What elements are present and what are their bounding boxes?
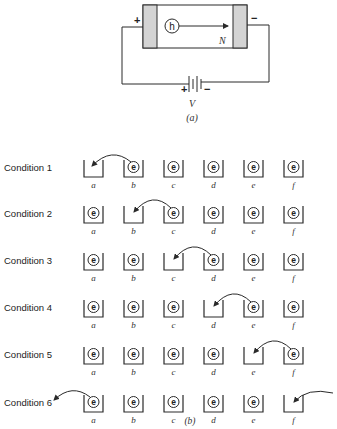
condition-label: Condition 6 xyxy=(4,397,52,408)
electron-symbol: e xyxy=(291,349,296,359)
bucket-label: a xyxy=(91,273,96,283)
electron-symbol: e xyxy=(291,255,296,265)
condition-label: Condition 4 xyxy=(4,302,52,313)
condition-label: Condition 1 xyxy=(4,162,52,173)
bucket-d xyxy=(204,300,223,317)
electron-symbol: e xyxy=(251,208,256,218)
electron-symbol: e xyxy=(171,349,176,359)
right-contact-plate xyxy=(233,5,247,48)
bucket-label: e xyxy=(252,180,256,190)
bucket-label: d xyxy=(211,273,216,283)
electron-symbol: e xyxy=(91,255,96,265)
electron-symbol: e xyxy=(171,208,176,218)
battery-minus: − xyxy=(204,83,210,95)
battery-plus: + xyxy=(181,83,187,95)
bucket-label: f xyxy=(292,320,296,330)
bucket-label: f xyxy=(292,180,296,190)
electron-symbol: e xyxy=(291,208,296,218)
electron-symbol: e xyxy=(211,349,216,359)
electron-symbol: e xyxy=(131,255,136,265)
bucket-label: b xyxy=(131,273,136,283)
electron-symbol: e xyxy=(251,255,256,265)
transfer-arrow-icon xyxy=(254,341,291,353)
bucket-label: f xyxy=(292,226,296,236)
bucket-label: a xyxy=(91,320,96,330)
bucket-label: a xyxy=(91,367,96,377)
bucket-label: b xyxy=(131,415,136,425)
left-terminal-sign: + xyxy=(134,14,140,26)
electron-symbol: e xyxy=(251,302,256,312)
bucket-f xyxy=(284,395,303,412)
bucket-label: c xyxy=(172,273,176,283)
condition-label: Condition 5 xyxy=(4,349,52,360)
bucket-b xyxy=(124,206,143,223)
electron-symbol: e xyxy=(131,349,136,359)
bucket-label: c xyxy=(172,320,176,330)
bucket-label: c xyxy=(172,367,176,377)
bucket-label: d xyxy=(211,226,216,236)
bucket-label: d xyxy=(211,320,216,330)
condition-label: Condition 2 xyxy=(4,208,52,219)
electron-symbol: e xyxy=(211,397,216,407)
bucket-label: c xyxy=(172,415,176,425)
transfer-arrow-icon xyxy=(174,247,211,259)
voltage-label: V xyxy=(189,98,197,109)
electron-symbol: e xyxy=(91,302,96,312)
bucket-label: b xyxy=(131,226,136,236)
electron-symbol: e xyxy=(251,162,256,172)
bucket-label: b xyxy=(131,180,136,190)
electron-symbol: e xyxy=(91,208,96,218)
transfer-arrow-icon xyxy=(92,155,131,166)
electron-symbol: e xyxy=(291,162,296,172)
electron-symbol: e xyxy=(291,302,296,312)
bucket-label: b xyxy=(131,367,136,377)
caption-a: (a) xyxy=(186,112,198,124)
bucket-label: f xyxy=(292,415,296,425)
electron-symbol: e xyxy=(171,397,176,407)
bucket-label: c xyxy=(172,180,176,190)
transfer-arrow-icon xyxy=(214,294,251,306)
bucket-label: e xyxy=(252,273,256,283)
hole-symbol: h xyxy=(169,21,175,32)
circuit-part-a: h N + − + − V (a) xyxy=(122,5,269,124)
electron-symbol: e xyxy=(171,302,176,312)
battery-icon xyxy=(189,76,201,92)
bucket-label: a xyxy=(91,415,96,425)
electron-symbol: e xyxy=(171,162,176,172)
entry-arrow-icon xyxy=(294,391,333,402)
electron-symbol: e xyxy=(211,208,216,218)
bucket-label: f xyxy=(292,367,296,377)
bucket-label: a xyxy=(91,226,96,236)
condition-label: Condition 3 xyxy=(4,255,52,266)
bucket-a xyxy=(84,160,103,177)
bucket-label: c xyxy=(172,226,176,236)
bucket-c xyxy=(164,253,183,270)
bucket-label: e xyxy=(252,320,256,330)
bucket-brigade-part-b: Condition 1aebecedeeefCondition 2eabeced… xyxy=(4,155,333,427)
bucket-label: b xyxy=(131,320,136,330)
left-contact-plate xyxy=(143,5,157,48)
transfer-arrow-icon xyxy=(134,200,171,212)
bucket-label: d xyxy=(211,415,216,425)
electron-symbol: e xyxy=(131,302,136,312)
electron-symbol: e xyxy=(91,349,96,359)
electron-symbol: e xyxy=(211,162,216,172)
bucket-label: a xyxy=(91,180,96,190)
bucket-label: d xyxy=(211,367,216,377)
bucket-label: d xyxy=(211,180,216,190)
bucket-label: e xyxy=(252,367,256,377)
bucket-label: f xyxy=(292,273,296,283)
right-terminal-sign: − xyxy=(251,12,257,24)
electron-symbol: e xyxy=(131,397,136,407)
drift-diagram: h N + − + − V (a) Condition 1aebecedeeef… xyxy=(0,0,337,429)
electron-symbol: e xyxy=(91,397,96,407)
electron-symbol: e xyxy=(211,255,216,265)
electron-symbol: e xyxy=(131,162,136,172)
electron-symbol: e xyxy=(251,397,256,407)
bucket-label: e xyxy=(252,226,256,236)
bucket-label: e xyxy=(252,415,256,425)
caption-b: (b) xyxy=(184,416,195,427)
bucket-e xyxy=(244,347,263,364)
region-label: N xyxy=(218,35,227,46)
